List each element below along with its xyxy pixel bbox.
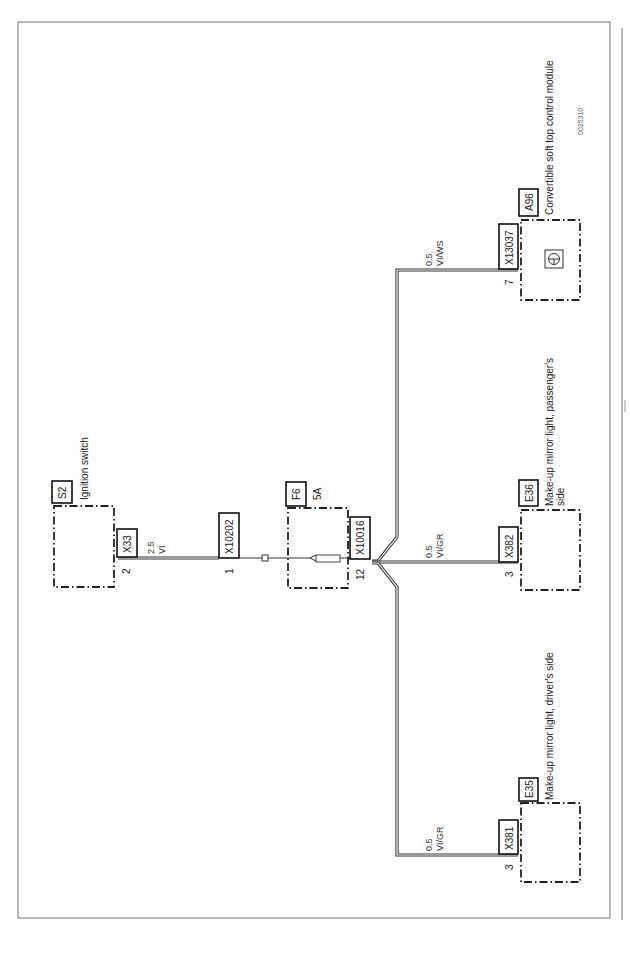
wire-size-label: 0.5 [424, 253, 434, 266]
control-module-icon [545, 250, 563, 268]
figure-id: 0025310 [577, 108, 584, 135]
pin-number: 7 [504, 279, 515, 285]
component-outline [54, 506, 114, 587]
pin-number: 12 [355, 568, 366, 580]
pin-number: 1 [224, 568, 235, 574]
component-outline [521, 803, 580, 882]
wire-x10016-x13037 [372, 270, 518, 561]
wire-color-label: VI/GR [435, 826, 445, 851]
component-name: Make-up mirror light, driver's side [544, 652, 555, 800]
fuse-rating: 5A [312, 487, 323, 500]
component-id: F6 [291, 488, 302, 500]
wire-color-label: VI/WS [435, 240, 445, 266]
wire-size-label: 0.5 [424, 545, 434, 558]
component-id: E36 [524, 484, 535, 502]
component-outline [521, 510, 580, 590]
pin-number: 3 [504, 571, 515, 577]
component-a96: A96 Convertible soft top control module … [499, 60, 580, 300]
component-outline [288, 508, 348, 588]
component-f6: X10202 1 F6 5A X10016 12 [219, 482, 370, 588]
pin-number: 2 [121, 568, 132, 574]
component-e35: E35 Make-up mirror light, driver's side … [499, 652, 580, 882]
wire-color-label: VI [157, 545, 167, 554]
component-id: E35 [524, 780, 535, 798]
connector-id: X13037 [504, 230, 515, 265]
component-name-cont: side [555, 487, 566, 506]
component-e36: E36 Make-up mirror light, passenger's si… [499, 358, 580, 590]
component-id: S2 [57, 486, 68, 499]
connector-id: X10202 [224, 519, 235, 554]
wire-size-label: 2.5 [146, 541, 156, 554]
wire-x10016-x381 [372, 563, 518, 855]
pin-number: 3 [504, 864, 515, 870]
component-name: Ignition switch [79, 437, 90, 500]
connector-id: X33 [122, 535, 133, 553]
component-s2: S2 Ignition switch X33 2 [52, 437, 137, 587]
wire-fuse-internal [240, 555, 352, 562]
component-name: Make-up mirror light, passenger's [544, 358, 555, 506]
connector-id: X10016 [355, 520, 366, 555]
component-id: A96 [524, 193, 535, 211]
connector-id: X382 [504, 534, 515, 558]
component-name: Convertible soft top control module [544, 60, 555, 215]
wire-color-label: VI/GR [435, 533, 445, 558]
connector-id: X381 [504, 826, 515, 850]
wire-size-label: 0.5 [424, 838, 434, 851]
wiring-diagram: 0025310 2.5 VI 0.5 VI/WS 0.5 VI/GR 0.5 V… [0, 0, 630, 953]
